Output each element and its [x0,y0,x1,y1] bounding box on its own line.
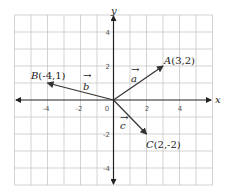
coordinate-plane: x y -4 -2 0 2 4 4 2 -2 -4 a → b → c → A(… [0,0,229,192]
arrow-icon: → [131,64,140,75]
y-tick: 4 [106,29,111,37]
x-tick: -4 [43,105,51,113]
svg-text:C(2,-2): C(2,-2) [146,139,181,150]
x-tick: 0 [105,105,109,113]
point-b-label: B(-4,1) [30,70,66,81]
point-a-label: A(3,2) [163,55,195,66]
x-tick: 4 [178,105,183,113]
vector-a-label: a → [131,64,140,84]
x-axis-label: x [215,94,221,105]
x-tick: 2 [145,105,149,113]
x-tick: -2 [76,105,83,113]
svg-text:B(-4,1): B(-4,1) [30,70,66,81]
svg-text:A(3,2): A(3,2) [163,55,195,66]
point-c-label: C(2,-2) [146,139,181,150]
y-tick: -4 [103,165,111,173]
y-tick: 2 [106,63,110,71]
svg-text:b: b [83,81,89,92]
vector-b-label: b → [83,70,92,92]
y-axis-label: y [110,5,117,16]
vector-c-label: c → [120,112,129,131]
y-tick: -2 [103,131,110,139]
arrow-icon: → [83,70,92,81]
arrow-icon: → [120,112,129,123]
